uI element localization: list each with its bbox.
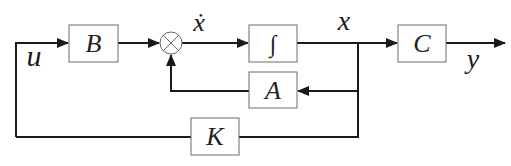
block-k-label: K (205, 122, 225, 151)
wire-u-to-b (16, 43, 68, 137)
block-a: A (249, 72, 297, 108)
signal-y-label: y (464, 43, 480, 74)
wire-x-to-a (298, 43, 358, 91)
summing-junction (160, 32, 182, 54)
integral-icon: ∫ (268, 31, 278, 59)
block-diagram: B ∫ C A K u ẋ x y (0, 0, 511, 166)
block-a-label: A (263, 76, 281, 105)
signal-x-label: x (337, 5, 351, 36)
signal-xdot-label: ẋ (192, 8, 205, 37)
block-c: C (398, 25, 446, 62)
block-b: B (69, 25, 118, 62)
block-integrator: ∫ (249, 25, 297, 62)
block-b-label: B (86, 29, 102, 58)
signal-u-label: u (27, 39, 42, 72)
block-k: K (191, 118, 239, 155)
wire-a-to-sum (171, 55, 249, 91)
block-c-label: C (413, 29, 431, 58)
